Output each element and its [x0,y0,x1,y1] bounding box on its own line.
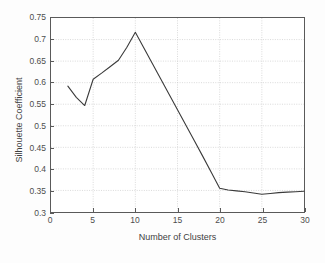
y-tick-mark [50,39,54,40]
y-tick-mark [50,213,54,214]
y-tick-mark [50,191,54,192]
y-tick-label: 0.75 [0,13,46,22]
x-tick-label: 0 [30,216,70,225]
y-tick-mark [50,148,54,149]
x-axis-title: Number of Clusters [50,232,305,242]
x-tick-mark [50,208,51,212]
series-line-0 [68,32,304,194]
plot-area [50,17,305,213]
y-tick-mark [50,82,54,83]
data-series-line [51,18,304,212]
x-tick-mark [93,208,94,212]
x-tick-mark [263,208,264,212]
x-tick-mark [178,208,179,212]
y-tick-mark [50,126,54,127]
x-tick-mark [220,208,221,212]
x-tick-label: 25 [243,216,283,225]
y-axis-title: Silhouette Coefficient [14,50,24,190]
y-tick-mark [50,104,54,105]
y-tick-mark [50,17,54,18]
x-tick-label: 30 [285,216,325,225]
y-tick-mark [50,169,54,170]
x-tick-label: 15 [158,216,198,225]
x-tick-mark [305,208,306,212]
y-tick-mark [50,61,54,62]
chart-figure: 0.30.350.40.450.50.550.60.650.70.75 0510… [0,0,325,263]
x-tick-label: 5 [73,216,113,225]
x-tick-mark [135,208,136,212]
x-tick-label: 10 [115,216,155,225]
y-tick-label: 0.7 [0,35,46,44]
x-tick-label: 20 [200,216,240,225]
